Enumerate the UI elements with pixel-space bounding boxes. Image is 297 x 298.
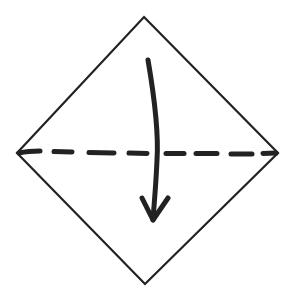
origami-diagram: Square paper oriented as diamond; valley… (0, 0, 297, 298)
diagram-canvas (0, 0, 297, 298)
background (0, 0, 297, 298)
